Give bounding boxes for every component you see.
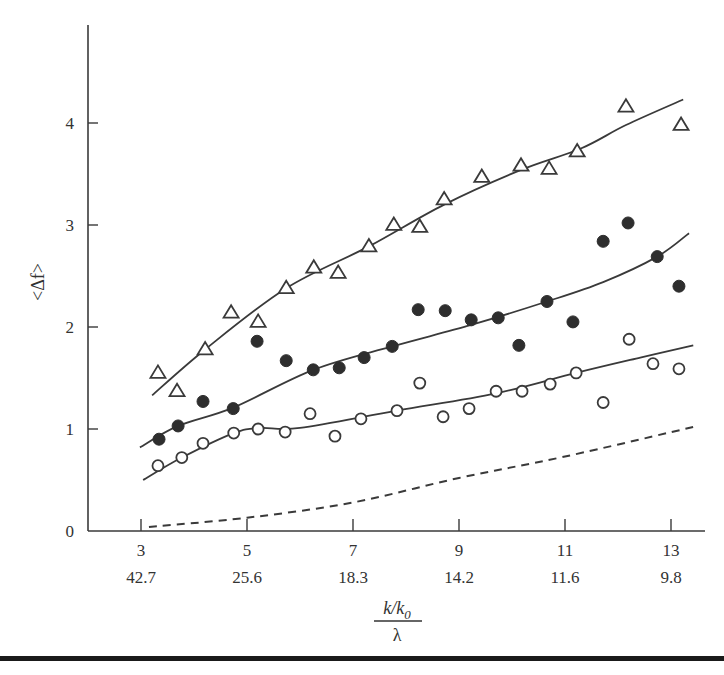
open-circle-marker: [198, 438, 209, 449]
triangle-marker: [150, 365, 165, 377]
filled-circle-marker: [492, 312, 504, 324]
x-tick-label: 5: [243, 541, 252, 560]
triangle-marker: [170, 384, 185, 396]
open-circle-marker: [152, 460, 163, 471]
open-circle-marker: [624, 334, 635, 345]
open-circle-marker: [598, 397, 609, 408]
x-axis-title: k/k0 λ: [374, 598, 422, 645]
open-circle-marker: [280, 427, 291, 438]
open-circle-marker: [571, 367, 582, 378]
open-circle-marker: [228, 428, 239, 439]
filled-circle-marker: [227, 403, 239, 415]
bottom-rule: [0, 656, 724, 661]
x-tick-label-secondary: 18.3: [338, 568, 368, 587]
x-tick-label-secondary: 25.6: [232, 568, 262, 587]
triangle-marker: [542, 161, 557, 173]
open-circle-marker: [391, 405, 402, 416]
axes: 01234342.7525.6718.3914.21111.6139.8: [66, 25, 706, 587]
open-circle-marker: [438, 411, 449, 422]
open-circle-marker: [647, 358, 658, 369]
filled-circle-marker: [439, 305, 451, 317]
filled-circle-marker: [541, 296, 553, 308]
data-markers: [150, 99, 688, 471]
filled-circle-marker: [622, 217, 634, 229]
x-axis-title-denominator: λ: [393, 625, 402, 645]
x-tick-label: 7: [349, 541, 358, 560]
filled-circle-marker: [307, 364, 319, 376]
filled-circle-marker: [412, 304, 424, 316]
triangle-marker: [251, 314, 266, 326]
triangle-marker: [224, 305, 239, 317]
open-circle-marker: [517, 386, 528, 397]
open-circle-marker: [176, 452, 187, 463]
open-circle-marker: [491, 386, 502, 397]
open-circle-marker: [253, 424, 264, 435]
filled-circle-marker: [197, 395, 209, 407]
y-tick-label: 3: [66, 216, 75, 235]
y-tick-label: 4: [66, 114, 75, 133]
x-tick-label: 3: [137, 541, 146, 560]
triangle-marker: [198, 342, 213, 354]
x-tick-label: 11: [557, 541, 573, 560]
triangle-marker: [437, 192, 452, 204]
x-tick-label-secondary: 14.2: [444, 568, 474, 587]
filled-circle-marker: [513, 339, 525, 351]
open-circle-marker: [355, 413, 366, 424]
x-tick-label: 9: [455, 541, 464, 560]
filled-circle-marker: [597, 235, 609, 247]
filled-circle-marker: [333, 362, 345, 374]
filled-circle-marker: [567, 316, 579, 328]
chart: 01234342.7525.6718.3914.21111.6139.8 <Δf…: [0, 0, 724, 675]
triangle-marker: [386, 218, 401, 230]
filled-circle-marker: [358, 352, 370, 364]
triangle-marker: [474, 170, 489, 182]
x-tick-label-secondary: 9.8: [660, 568, 681, 587]
x-tick-label: 13: [663, 541, 680, 560]
triangle-marker: [331, 265, 346, 277]
x-axis-title-numerator: k/k0: [383, 598, 411, 622]
triangle-marker: [618, 99, 633, 111]
triangle-marker: [514, 158, 529, 170]
triangle-marker: [361, 239, 376, 251]
filled-circle-marker: [251, 335, 263, 347]
y-tick-label: 1: [66, 420, 75, 439]
x-tick-label-secondary: 11.6: [550, 568, 579, 587]
open-circles-curve: [143, 345, 693, 480]
triangle-marker: [279, 281, 294, 293]
open-circle-marker: [673, 363, 684, 374]
dashed-reference-curve: [149, 427, 693, 527]
triangle-marker: [570, 144, 585, 156]
open-circle-marker: [329, 431, 340, 442]
filled-circle-marker: [651, 251, 663, 263]
x-tick-label-secondary: 42.7: [126, 568, 156, 587]
open-circle-marker: [414, 378, 425, 389]
filled-circle-marker: [280, 355, 292, 367]
open-circle-marker: [305, 408, 316, 419]
y-axis-title: <Δf>: [28, 263, 48, 301]
filled-circle-marker: [153, 433, 165, 445]
filled-circles-curve: [140, 233, 689, 447]
y-tick-label: 2: [66, 318, 75, 337]
filled-circle-marker: [465, 314, 477, 326]
filled-circle-marker: [673, 280, 685, 292]
triangle-marker: [674, 118, 689, 130]
filled-circle-marker: [386, 340, 398, 352]
y-tick-label: 0: [66, 522, 75, 541]
open-circle-marker: [464, 403, 475, 414]
filled-circle-marker: [172, 420, 184, 432]
axis-labels: <Δf> k/k0 λ: [28, 263, 422, 645]
open-circle-marker: [545, 379, 556, 390]
triangle-marker: [306, 260, 321, 272]
